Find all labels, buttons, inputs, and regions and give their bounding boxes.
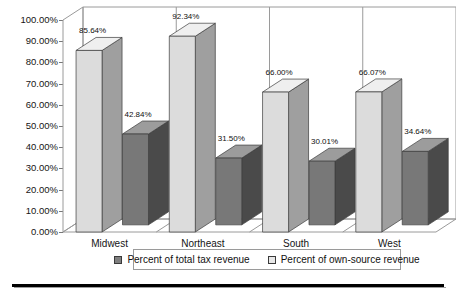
legend-label-total-tax-revenue: Percent of total tax revenue — [127, 254, 249, 265]
legend-item-total-tax-revenue: Percent of total tax revenue — [114, 254, 249, 265]
x-axis-label-south: South — [250, 238, 343, 249]
x-axis-label-midwest: Midwest — [63, 238, 156, 249]
x-axis-label-northeast: Northeast — [156, 238, 249, 249]
legend-swatch-dark — [114, 256, 122, 264]
legend-label-own-source-revenue: Percent of own-source revenue — [281, 254, 420, 265]
chart-legend: Percent of total tax revenue Percent of … — [133, 249, 401, 270]
bottom-divider-shadow — [14, 287, 446, 288]
chart-container: 0.00%10.00%20.00%30.00%40.00%50.00%60.00… — [0, 0, 456, 297]
legend-item-own-source-revenue: Percent of own-source revenue — [268, 254, 420, 265]
x-axis-label-west: West — [343, 238, 436, 249]
legend-swatch-light — [268, 256, 276, 264]
